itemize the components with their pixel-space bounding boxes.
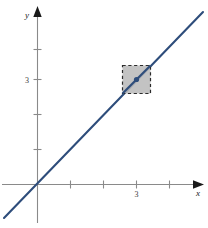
plot-area: y x 3 3 [0,0,208,228]
x-axis-label: x [195,188,200,198]
y-axis-arrow-icon [33,6,41,17]
x-tick-label-3: 3 [135,190,139,199]
y-tick-label-3: 3 [25,76,29,85]
line-graph-figure: y x 3 3 [0,0,208,228]
highlighted-point [134,77,139,82]
y-axis-label: y [24,10,29,20]
